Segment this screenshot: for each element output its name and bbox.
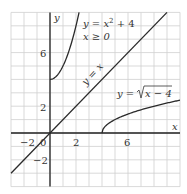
parabola-domain-label: x ≥ 0: [83, 31, 110, 42]
x-tick-label: 6: [124, 137, 130, 148]
parabola-label: y = x2 + 4: [82, 17, 135, 29]
y-axis-label: y: [53, 12, 60, 23]
y-tick-label: 2: [40, 102, 46, 113]
sqrt-label-prefix: y =: [116, 88, 134, 99]
function-graph: y x −2 0 2 6 6 2 −2 y = x2 + 4 x ≥ 0 y =…: [0, 0, 187, 194]
identity-label: y = x: [79, 61, 106, 89]
parabola-label-tail: + 4: [114, 18, 135, 29]
x-tick-label: 2: [73, 137, 79, 148]
x-axis-label: x: [172, 121, 178, 132]
y-tick-label: −2: [33, 155, 48, 166]
parabola-label-eq: y = x: [82, 18, 109, 29]
x-tick-label: −2: [20, 137, 35, 148]
sqrt-label-radicand: x − 4: [145, 88, 172, 99]
y-tick-label: 6: [40, 48, 46, 59]
origin-label: 0: [40, 137, 46, 148]
